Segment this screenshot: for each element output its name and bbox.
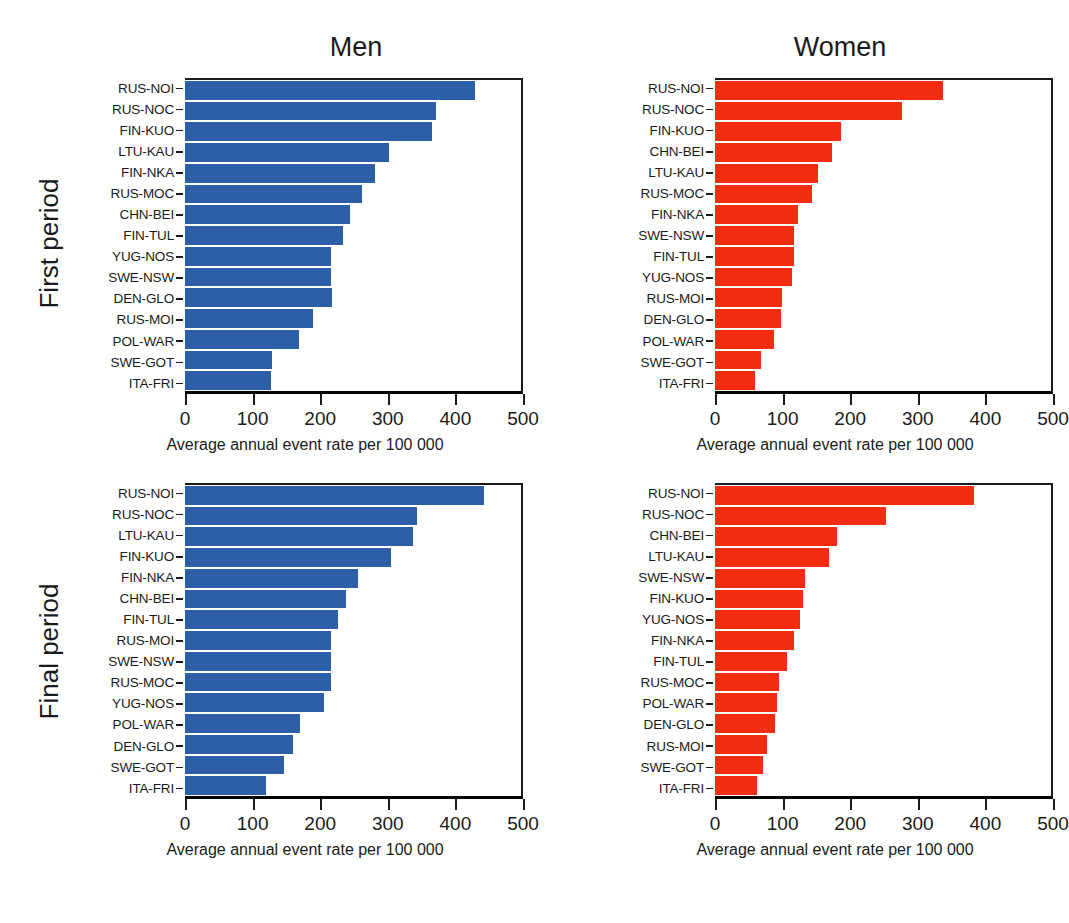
category-label: FIN-NKA bbox=[121, 166, 174, 180]
bar-row bbox=[185, 121, 521, 142]
category-tick-icon bbox=[706, 788, 713, 790]
bar-row bbox=[715, 80, 1051, 101]
bar-row bbox=[715, 672, 1051, 693]
x-tick bbox=[1053, 394, 1055, 405]
category-tick-icon bbox=[706, 767, 713, 769]
bar bbox=[715, 288, 782, 307]
x-tick bbox=[985, 394, 987, 405]
category-label-row: POL-WAR bbox=[0, 715, 185, 736]
category-label-row: RUS-MOI bbox=[0, 310, 185, 331]
category-label-row: FIN-KUO bbox=[0, 546, 185, 567]
category-label: FIN-TUL bbox=[653, 250, 704, 264]
category-label-row: RUS-MOC bbox=[530, 673, 715, 694]
category-label: FIN-KUO bbox=[650, 592, 704, 606]
category-label-row: SWE-NSW bbox=[0, 652, 185, 673]
bar-row bbox=[185, 568, 521, 589]
category-label: RUS-MOC bbox=[111, 676, 174, 690]
bar-row bbox=[715, 329, 1051, 350]
category-label: POL-WAR bbox=[113, 335, 174, 349]
bar-row bbox=[185, 329, 521, 350]
bar-row bbox=[715, 246, 1051, 267]
category-label: CHN-BEI bbox=[120, 592, 174, 606]
category-axis-labels: RUS-NOIRUS-NOCFIN-KUOCHN-BEILTU-KAURUS-M… bbox=[530, 78, 715, 394]
bar-row bbox=[185, 692, 521, 713]
category-label-row: POL-WAR bbox=[0, 331, 185, 352]
bar bbox=[715, 122, 841, 141]
category-label-row: ITA-FRI bbox=[530, 778, 715, 799]
bar bbox=[185, 102, 436, 121]
category-label-row: FIN-NKA bbox=[530, 630, 715, 651]
category-tick-icon bbox=[706, 514, 713, 516]
bar bbox=[715, 351, 761, 370]
bar-row bbox=[715, 630, 1051, 651]
bar-row bbox=[715, 225, 1051, 246]
category-label-row: RUS-NOC bbox=[530, 99, 715, 120]
category-label-row: YUG-NOS bbox=[0, 247, 185, 268]
x-tick-label: 300 bbox=[902, 408, 934, 430]
x-tick bbox=[455, 799, 457, 810]
x-axis-title: Average annual event rate per 100 000 bbox=[620, 436, 1050, 454]
bar-row bbox=[185, 755, 521, 776]
bar bbox=[715, 673, 779, 692]
category-label: CHN-BEI bbox=[650, 529, 704, 543]
bar bbox=[715, 330, 774, 349]
bar-row bbox=[185, 80, 521, 101]
bar-row bbox=[715, 775, 1051, 796]
category-tick-icon bbox=[176, 788, 183, 790]
column-title-men: Men bbox=[206, 32, 506, 63]
category-label-row: FIN-KUO bbox=[530, 120, 715, 141]
category-label-row: FIN-NKA bbox=[0, 162, 185, 183]
category-label: RUS-MOI bbox=[117, 634, 174, 648]
plot-area bbox=[715, 78, 1053, 394]
bar bbox=[185, 164, 375, 183]
category-label-row: DEN-GLO bbox=[530, 310, 715, 331]
category-tick-icon bbox=[706, 535, 713, 537]
category-label-row: FIN-NKA bbox=[0, 567, 185, 588]
category-label-row: SWE-GOT bbox=[530, 352, 715, 373]
x-tick-label: 400 bbox=[440, 408, 472, 430]
bar-row bbox=[715, 609, 1051, 630]
bar bbox=[715, 548, 829, 567]
bar-row bbox=[185, 485, 521, 506]
category-label-row: SWE-GOT bbox=[0, 757, 185, 778]
x-tick bbox=[850, 799, 852, 810]
bar-row bbox=[185, 142, 521, 163]
panel-men-final-period: RUS-NOIRUS-NOCLTU-KAUFIN-KUOFIN-NKACHN-B… bbox=[0, 483, 530, 813]
bar bbox=[715, 102, 902, 121]
bar bbox=[185, 351, 272, 370]
category-label: DEN-GLO bbox=[114, 292, 174, 306]
category-tick-icon bbox=[706, 193, 713, 195]
bar bbox=[715, 164, 818, 183]
category-label-row: FIN-TUL bbox=[0, 609, 185, 630]
bar bbox=[185, 268, 331, 287]
category-tick-icon bbox=[176, 383, 183, 385]
category-tick-icon bbox=[176, 214, 183, 216]
bar-row bbox=[185, 506, 521, 527]
bar-row bbox=[715, 713, 1051, 734]
x-tick bbox=[388, 394, 390, 405]
bar bbox=[715, 756, 763, 775]
category-label: DEN-GLO bbox=[644, 718, 704, 732]
panel-women-first-period: RUS-NOIRUS-NOCFIN-KUOCHN-BEILTU-KAURUS-M… bbox=[530, 78, 1060, 408]
bar bbox=[185, 371, 271, 390]
category-tick-icon bbox=[176, 577, 183, 579]
category-tick-icon bbox=[176, 151, 183, 153]
category-label-row: SWE-NSW bbox=[530, 225, 715, 246]
x-tick bbox=[253, 394, 255, 405]
category-label: SWE-GOT bbox=[641, 761, 704, 775]
x-tick-label: 400 bbox=[970, 813, 1002, 835]
bar-row bbox=[185, 225, 521, 246]
category-label-row: RUS-NOI bbox=[0, 78, 185, 99]
category-label-row: POL-WAR bbox=[530, 331, 715, 352]
category-tick-icon bbox=[706, 109, 713, 111]
bar bbox=[715, 631, 794, 650]
category-tick-icon bbox=[706, 556, 713, 558]
x-tick-label: 200 bbox=[834, 813, 866, 835]
category-tick-icon bbox=[706, 151, 713, 153]
category-label-row: SWE-NSW bbox=[0, 268, 185, 289]
bar bbox=[715, 226, 794, 245]
bar bbox=[715, 143, 832, 162]
x-tick-label: 200 bbox=[304, 408, 336, 430]
bar bbox=[715, 735, 767, 754]
bar-row bbox=[185, 370, 521, 391]
